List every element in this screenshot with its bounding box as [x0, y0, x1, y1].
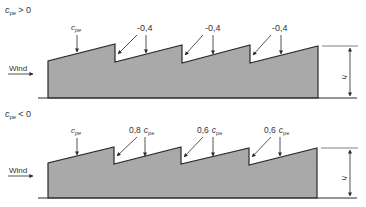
wind-label: Wind	[9, 166, 27, 175]
leeward-arrow-icon	[253, 35, 271, 55]
roof-label-3: 0,6cpe	[197, 125, 222, 136]
condition-label: cpe< 0	[5, 109, 31, 120]
leeward-arrow-icon	[184, 137, 203, 157]
roof-label-1: cpe	[71, 126, 81, 136]
condition-label: cpe> 0	[5, 5, 31, 16]
building-section	[48, 44, 318, 98]
roof-label-4: 0,6cpe	[264, 125, 289, 136]
wind-label: Wind	[9, 64, 27, 73]
roof-label-1: cpe	[71, 23, 81, 33]
sawtooth-roof-wind-diagram: cpe> 0 Wind cpe -0,4 -0,4 -0,4 h cpe< 0 …	[0, 0, 366, 207]
height-label: h	[340, 75, 349, 80]
roof-label-2: -0,4	[137, 23, 153, 33]
roof-label-2: 0,8cpe	[129, 125, 154, 136]
roof-label-3: -0,4	[205, 23, 221, 33]
diagram-negative-cpe: cpe< 0 Wind cpe 0,8cpe 0,6cpe 0,6cpe h	[5, 109, 358, 198]
building-section	[48, 147, 317, 198]
leeward-arrow-icon	[117, 137, 137, 156]
leeward-arrow-icon	[185, 35, 203, 55]
diagram-positive-cpe: cpe> 0 Wind cpe -0,4 -0,4 -0,4 h	[5, 5, 358, 98]
height-label: h	[340, 176, 349, 181]
leeward-arrow-icon	[252, 137, 271, 157]
roof-label-4: -0,4	[272, 23, 288, 33]
leeward-arrow-icon	[118, 35, 137, 54]
